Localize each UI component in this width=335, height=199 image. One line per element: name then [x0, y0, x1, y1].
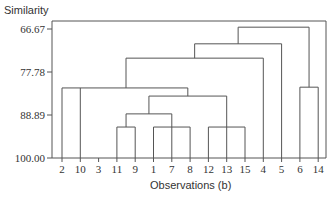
x-tick-label: 2	[59, 163, 65, 175]
dendrogram-plot: 66.6777.7888.89100.00 210311917812131545…	[0, 0, 335, 199]
x-tick-label: 11	[112, 163, 123, 175]
y-axis: 66.6777.7888.89100.00	[15, 23, 52, 164]
x-tick-label: 4	[261, 163, 267, 175]
x-tick-label: 12	[203, 163, 214, 175]
x-tick-label: 1	[151, 163, 157, 175]
y-tick-label: 88.89	[20, 109, 45, 121]
y-tick-label: 77.78	[20, 66, 45, 78]
dendrogram-links	[62, 27, 318, 158]
x-tick-label: 8	[187, 163, 193, 175]
x-tick-label: 10	[75, 163, 87, 175]
x-tick-label: 13	[221, 163, 233, 175]
x-tick-label: 15	[240, 163, 252, 175]
x-tick-label: 9	[132, 163, 138, 175]
x-tick-label: 14	[313, 163, 325, 175]
y-tick-label: 66.67	[20, 23, 45, 35]
x-tick-label: 7	[169, 163, 175, 175]
x-tick-label: 5	[279, 163, 285, 175]
y-tick-label: 100.00	[15, 152, 46, 164]
x-tick-label: 6	[297, 163, 303, 175]
plot-frame	[52, 21, 326, 158]
x-tick-label: 3	[96, 163, 102, 175]
x-axis: 210311917812131545614	[59, 158, 324, 175]
